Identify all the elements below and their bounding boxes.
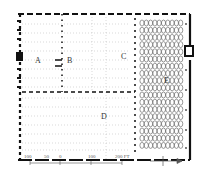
north-arrow (150, 156, 182, 166)
room-label-c: C (121, 52, 126, 61)
scale-label-200ft: 200 FT (115, 154, 130, 159)
room-label-d: D (101, 112, 107, 121)
mihrab (185, 46, 193, 56)
arch-rows (140, 20, 183, 148)
floor-plan (0, 0, 209, 176)
scale-label-100: 100 (88, 154, 96, 159)
room-label-b: B (67, 56, 72, 65)
scale-label-0: 0 (59, 154, 62, 159)
interior-divisions (22, 14, 135, 152)
scale-bar (30, 161, 122, 165)
west-buttresses (16, 20, 23, 88)
room-label-a: A (35, 56, 41, 65)
room-label-e: E (164, 76, 169, 85)
scale-label-50: 50 (44, 154, 49, 159)
column-dots (185, 23, 187, 149)
grid-lines (22, 14, 128, 160)
scale-label-100-left: 100 (24, 154, 32, 159)
